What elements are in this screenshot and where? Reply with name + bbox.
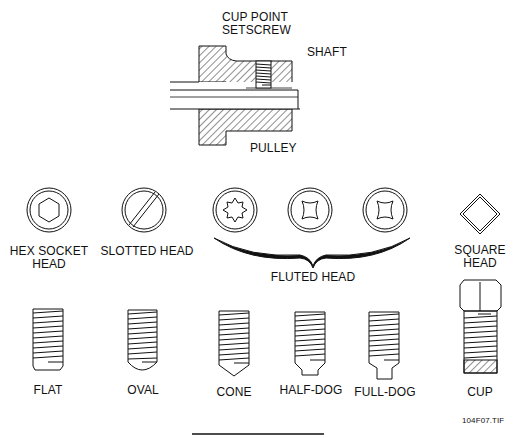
flat-point-screw-icon (33, 309, 63, 370)
half-dog-point-screw-icon (295, 312, 325, 375)
point-label-full-dog: FULL-DOG (352, 386, 418, 399)
pulley-shaft-assembly (170, 46, 300, 145)
slotted-head-icon (122, 188, 166, 232)
diagram-canvas (0, 0, 518, 438)
figure-id-label: 104F07.TIF (462, 414, 504, 427)
shaft-label: SHAFT (307, 46, 347, 59)
full-dog-point-screw-icon (369, 312, 399, 379)
point-label-oval: OVAL (118, 384, 168, 397)
cup-point-screw-icon (460, 280, 501, 373)
point-label-flat: FLAT (23, 384, 73, 397)
fluted-head-4b-icon (363, 188, 407, 232)
point-label-half-dog: HALF-DOG (278, 384, 344, 397)
fluted-head-4a-icon (288, 188, 332, 232)
square-head-label: SQUARE HEAD (450, 244, 510, 270)
slotted-head-label: SLOTTED HEAD (99, 245, 195, 258)
square-head-label-line2: HEAD (450, 257, 510, 270)
setscrew-in-assembly (256, 61, 271, 88)
hex-socket-label-line2: HEAD (9, 258, 89, 271)
square-head-icon (460, 194, 500, 234)
fluted-head-label: FLUTED HEAD (265, 271, 361, 284)
oval-point-screw-icon (128, 310, 157, 370)
fluted-brace-icon (214, 238, 410, 268)
hex-socket-head-icon (27, 188, 71, 232)
point-label-cone: CONE (209, 386, 259, 399)
fluted-head-6-icon (213, 188, 257, 232)
cone-point-screw-icon (219, 311, 249, 376)
hex-socket-label: HEX SOCKET HEAD (9, 245, 89, 271)
point-label-cup: CUP (455, 386, 505, 399)
setscrew-label: CUP POINT SETSCREW (222, 11, 291, 37)
setscrew-label-line2: SETSCREW (222, 24, 291, 37)
pulley-label: PULLEY (250, 142, 297, 155)
